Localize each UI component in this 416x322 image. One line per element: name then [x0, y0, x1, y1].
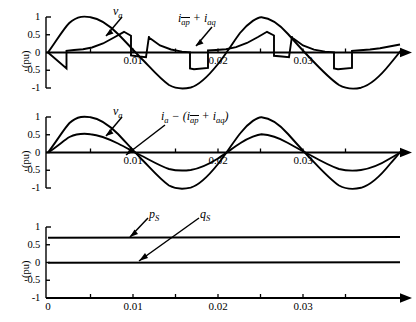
panel-3-ytick-0p5: 0.5	[14, 240, 40, 251]
leader-ia-minus-panel-2	[118, 122, 172, 160]
panel-2-ytick-1: 1	[14, 112, 40, 123]
curve-qs-panel-3	[48, 262, 400, 263]
panel-3-ytick-m0p5: -0.5	[14, 275, 40, 286]
panel-3-ytick-0: 0	[14, 258, 40, 269]
panel-1-ytick-0: 0	[14, 48, 40, 59]
panel-3-xtick-0p01: 0.01	[112, 301, 154, 312]
leader-va-panel-1	[100, 14, 132, 40]
panel-3-xtick-0p03: 0.03	[282, 301, 324, 312]
panel-1-ytick-m1: -1	[14, 83, 40, 94]
panel-2-xtick-0p02: 0.02	[197, 155, 239, 166]
curve-ps-panel-3	[48, 237, 400, 238]
panel-3-ytick-1: 1	[14, 222, 40, 233]
leader-iapq-panel-1	[190, 24, 220, 50]
panel-1-ytick-0p5: 0.5	[14, 30, 40, 41]
leader-qs-panel-3	[131, 215, 205, 267]
panel-3: (pu) 1 0.5 0 -0.5 -1 0 0.01 0.02 0.03 pS…	[0, 202, 416, 322]
panel-1-ytick-1: 1	[14, 12, 40, 23]
panel-2-xtick-0p03: 0.03	[282, 155, 324, 166]
panel-2-ytick-m1: -1	[14, 183, 40, 194]
panel-1-ytick-m0p5: -0.5	[14, 65, 40, 76]
panel-1-xtick-0p01: 0.01	[112, 55, 154, 66]
panel-3-xtick-0: 0	[27, 301, 69, 312]
panel-2-ytick-0p5: 0.5	[14, 130, 40, 141]
panel-1: (pu) 1 0.5 0 -0.5 -1 0.01 0.02 0.03 va i…	[0, 0, 416, 108]
panel-2-ytick-0: 0	[14, 148, 40, 159]
panel-2-ytick-m0p5: -0.5	[14, 165, 40, 176]
panel-1-xtick-0p03: 0.03	[282, 55, 324, 66]
panel-2: (pu) 1 0.5 0 -0.5 -1 0.01 0.02 0.03 va i…	[0, 100, 416, 208]
panel-3-xtick-0p02: 0.02	[197, 301, 239, 312]
panel-1-xtick-0p02: 0.02	[197, 55, 239, 66]
